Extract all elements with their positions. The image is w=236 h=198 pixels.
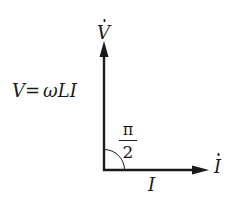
phasor-diagram: V V=ωLI π 2 I I (0, 0, 236, 198)
angle-label: π 2 (119, 122, 137, 161)
voltage-phasor-label: V (97, 24, 110, 42)
current-magnitude-label: I (148, 176, 155, 194)
voltage-arrowhead-icon (100, 41, 109, 57)
angle-denominator: 2 (119, 144, 137, 161)
angle-numerator: π (119, 122, 137, 138)
equation-equals: = (25, 80, 40, 101)
equation-label: V=ωLI (12, 82, 77, 100)
current-arrowhead-icon (192, 166, 209, 175)
equation-lhs: V (12, 80, 25, 101)
equation-rhs: ωLI (43, 80, 77, 101)
fraction-bar (119, 140, 137, 141)
current-phasor-label: I (214, 158, 221, 176)
